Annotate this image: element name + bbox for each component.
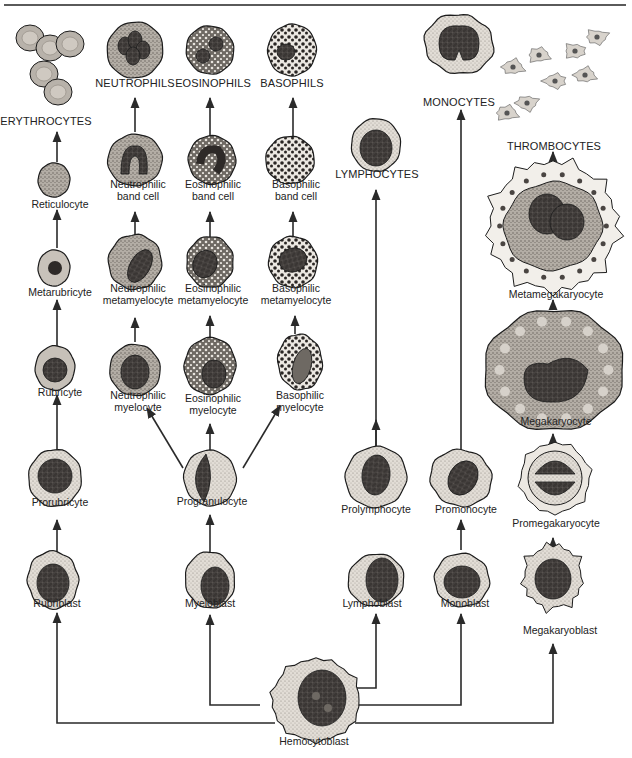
nucleus <box>196 49 210 63</box>
nucleus <box>43 358 67 382</box>
monocytes-label: MONOCYTES <box>423 96 495 108</box>
basophilic-band-cell-label: Basophilic band cell <box>272 178 320 202</box>
arrow <box>243 406 280 468</box>
metarubricyte-label: Metarubricyte <box>28 286 92 298</box>
erythrocytes-cell <box>16 25 84 105</box>
arrow <box>147 408 183 468</box>
promonocyte-cell <box>430 449 492 507</box>
nucleus <box>360 130 392 166</box>
eosinophilic-band-cell-label: Eosinophilic band cell <box>185 178 241 202</box>
erythrocytes-label: ERYTHROCYTES <box>0 115 91 127</box>
connector-arrow <box>57 613 275 723</box>
neutrophilic-band-cell-label: Neutrophilic band cell <box>110 178 165 202</box>
nucleus <box>126 47 140 65</box>
eosinophilic-metamyelocyte-label: Eosinophilic metamyelocyte <box>178 282 249 306</box>
nucleus <box>535 559 571 599</box>
hemocytoblast-label: Hemocytoblast <box>279 735 348 747</box>
reticulocyte-label: Reticulocyte <box>31 198 88 210</box>
basophilic-myelocyte-cell <box>277 334 322 390</box>
eosinophilic-myelocyte-cell <box>184 337 236 395</box>
eosinophilic-myelocyte-label: Eosinophilic myelocyte <box>185 392 241 416</box>
reticulocyte-cell <box>38 163 70 197</box>
promegakaryocyte-label: Promegakaryocyte <box>512 517 600 529</box>
thrombocytes-cell <box>496 30 609 121</box>
monocytes-cell <box>424 15 494 74</box>
nucleus <box>444 566 480 598</box>
nucleus <box>298 670 346 726</box>
connector-arrow <box>357 614 461 705</box>
metarubricyte-cell <box>38 250 70 286</box>
nucleus <box>38 459 72 493</box>
basophils-cell <box>267 24 316 76</box>
lymphoblast-label: Lymphoblast <box>342 597 401 609</box>
basophils-label: BASOPHILS <box>260 77 323 89</box>
hematopoiesis-diagram <box>0 0 632 758</box>
metamegakaryocyte-cell <box>486 158 624 296</box>
lymphocytes-label: LYMPHOCYTES <box>335 168 418 180</box>
connector-arrow <box>210 615 260 705</box>
nucleus <box>209 37 223 51</box>
rubricyte-cell <box>35 346 75 391</box>
cytoplasm <box>38 163 70 197</box>
eosinophils-label: EOSINOPHILS <box>175 77 251 89</box>
megakaryocyte-label: Megakaryocyte <box>520 415 591 427</box>
lymphocytes-cell <box>351 119 400 172</box>
monoblast-label: Monoblast <box>441 597 489 609</box>
neutrophilic-myelocyte-label: Neutrophilic myelocyte <box>110 389 165 413</box>
prorubricyte-label: Prorubricyte <box>32 496 89 508</box>
megakaryocyte-cell <box>485 311 622 430</box>
nucleus <box>366 558 398 602</box>
basophilic-metamyelocyte-label: Basophilic metamyelocyte <box>261 282 332 306</box>
nucleus <box>550 204 584 240</box>
neutrophils-label: NEUTROPHILS <box>95 77 174 89</box>
cytoplasm <box>266 136 314 183</box>
metamegakaryocyte-label: Metamegakaryocyte <box>509 288 604 300</box>
prolymphocyte-cell <box>345 446 407 508</box>
basophilic-metamyelocyte-cell <box>268 236 317 288</box>
rubriblast-label: Rubriblast <box>33 597 80 609</box>
progranulocyte-label: Progranulocyte <box>177 495 248 507</box>
nucleus <box>202 360 226 388</box>
eosinophils-cell <box>186 26 234 74</box>
cytoplasm <box>186 26 234 74</box>
hemocytoblast-cell <box>270 658 359 744</box>
promonocyte-label: Promonocyte <box>435 503 497 515</box>
basophilic-myelocyte-label: Basophilic myelocyte <box>276 389 324 413</box>
promegakaryocyte-cell <box>518 442 592 515</box>
nucleus <box>277 44 295 60</box>
thrombocytes-label: THROMBOCYTES <box>507 140 601 152</box>
neutrophils-cell <box>107 22 162 78</box>
neutrophilic-metamyelocyte-label: Neutrophilic metamyelocyte <box>103 282 174 306</box>
myeloblast-label: Myeloblast <box>185 597 235 609</box>
prolymphocyte-label: Prolymphocyte <box>341 503 410 515</box>
connector-arrow <box>355 644 553 723</box>
rubricyte-label: Rubricyte <box>38 386 82 398</box>
megakaryoblast-cell <box>521 542 584 613</box>
megakaryoblast-label: Megakaryoblast <box>523 624 597 636</box>
basophilic-band-cell-cell <box>266 136 314 183</box>
nucleus <box>121 355 149 389</box>
eosinophilic-metamyelocyte-cell <box>187 237 233 287</box>
neutrophilic-myelocyte-cell <box>110 344 160 395</box>
